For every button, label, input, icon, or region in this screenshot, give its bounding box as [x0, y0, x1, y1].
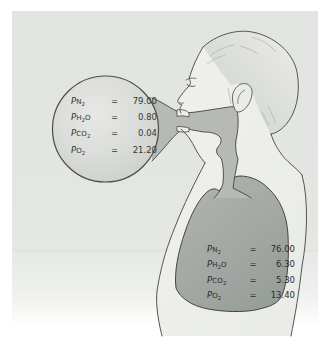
gas-value: 21.20 — [121, 145, 157, 155]
gas-value: 6.30 — [259, 259, 295, 269]
equals-sign: = — [108, 146, 121, 155]
gas-value: 79.00 — [121, 96, 157, 106]
figure-canvas: PN2 = 79.00 PH2O = 0.80 PCO2 = 0.04 PO2 … — [0, 0, 330, 356]
gas-value: 0.04 — [121, 128, 157, 138]
gas-row: PO2 = 13.40 — [207, 283, 295, 298]
equals-sign: = — [108, 97, 121, 106]
alveolar-air-values: PN2 = 76.00 PH2O = 6.30 PCO2 = 5.30 PO2 … — [207, 237, 295, 299]
gas-row: PCO2 = 5.30 — [207, 268, 295, 283]
equals-sign: = — [247, 245, 259, 254]
equals-sign: = — [108, 129, 121, 138]
respiratory-diagram — [0, 0, 330, 356]
equals-sign: = — [247, 276, 259, 285]
equals-sign: = — [108, 113, 121, 122]
gas-label: PO2 — [207, 283, 247, 302]
gas-value: 76.00 — [259, 244, 295, 254]
gas-value: 13.40 — [259, 290, 295, 300]
gas-row: PN2 = 76.00 — [207, 237, 295, 252]
inspired-air-values: PN2 = 79.00 PH2O = 0.80 PCO2 = 0.04 PO2 … — [71, 89, 157, 154]
gas-value: 5.30 — [259, 275, 295, 285]
gas-label: PO2 — [71, 138, 108, 157]
equals-sign: = — [247, 291, 259, 300]
gas-row: PO2 = 21.20 — [71, 138, 157, 154]
gas-row: PH2O = 0.80 — [71, 105, 157, 121]
gas-row: PCO2 = 0.04 — [71, 121, 157, 137]
gas-value: 0.80 — [121, 112, 157, 122]
equals-sign: = — [247, 260, 259, 269]
gas-row: PN2 = 79.00 — [71, 89, 157, 105]
